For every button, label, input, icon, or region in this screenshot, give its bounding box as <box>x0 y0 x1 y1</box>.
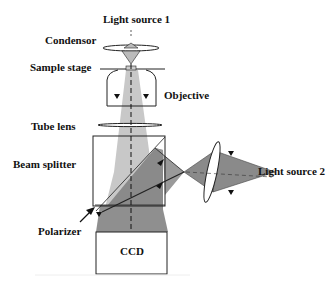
label-beam-splitter: Beam splitter <box>13 158 76 170</box>
tube-lens <box>98 123 162 126</box>
label-tube-lens: Tube lens <box>31 120 76 132</box>
label-sample-stage: Sample stage <box>30 61 91 73</box>
label-polarizer: Polarizer <box>38 225 81 237</box>
label-ccd: CCD <box>120 245 144 257</box>
label-light-source-2: Light source 2 <box>258 165 325 177</box>
label-objective: Objective <box>164 89 209 101</box>
label-light-source-1: Light source 1 <box>103 13 170 25</box>
label-condensor: Condensor <box>45 34 96 46</box>
